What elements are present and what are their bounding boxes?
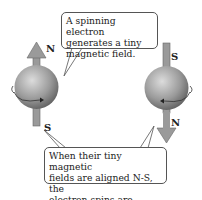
- right-north-label: N: [171, 117, 180, 128]
- right-south-label: S: [171, 51, 178, 62]
- bottom-callout-pointer-right: [140, 126, 154, 148]
- left-electron: [12, 42, 59, 126]
- electron-spin-diagram: N S S N A spinning electron generates a …: [0, 0, 202, 200]
- left-south-label: S: [44, 122, 51, 133]
- bottom-callout-line: When their tiny magnetic: [49, 150, 162, 172]
- right-arrow-down-icon: [157, 128, 176, 143]
- top-callout-line: A spinning electron: [66, 15, 153, 37]
- top-callout-line: magnetic field.: [66, 48, 153, 59]
- left-arrow-up-icon: [27, 42, 46, 58]
- bottom-callout-line: electron spins are paired.: [49, 194, 162, 200]
- bottom-callout: When their tiny magnetic fields are alig…: [44, 147, 167, 184]
- right-electron-sphere: [145, 66, 189, 110]
- left-north-label: N: [46, 43, 55, 54]
- top-callout: A spinning electron generates a tiny mag…: [61, 12, 158, 49]
- left-electron-sphere: [15, 65, 59, 109]
- bottom-callout-line: fields are aligned N-S, the: [49, 172, 162, 194]
- top-callout-line: generates a tiny: [66, 37, 153, 48]
